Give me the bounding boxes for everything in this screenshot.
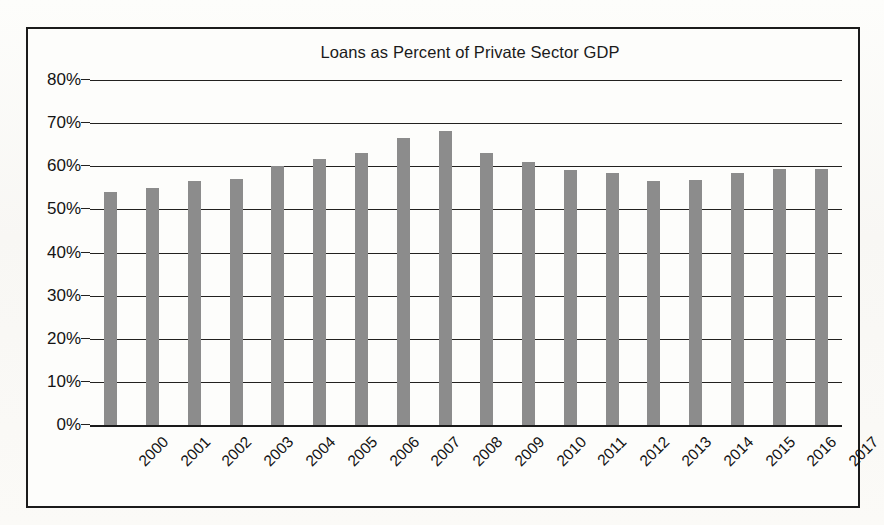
y-tick-label: 20% bbox=[47, 329, 81, 349]
x-tick-label-2016: 2016 bbox=[803, 433, 840, 470]
bar-slot bbox=[800, 80, 842, 425]
bar-slot bbox=[633, 80, 675, 425]
bar-2017[interactable] bbox=[815, 169, 828, 425]
bar-2003[interactable] bbox=[230, 179, 243, 425]
x-tick-label-2011: 2011 bbox=[594, 433, 630, 469]
y-tick-mark bbox=[81, 79, 90, 80]
y-tick-label: 0% bbox=[56, 415, 81, 435]
x-tick-label-2004: 2004 bbox=[302, 433, 339, 470]
bar-slot bbox=[132, 80, 174, 425]
bar-slot bbox=[257, 80, 299, 425]
x-tick-label-2006: 2006 bbox=[386, 433, 423, 470]
x-tick-label-2005: 2005 bbox=[344, 433, 381, 470]
bar-2012[interactable] bbox=[606, 173, 619, 425]
x-axis-labels: 2000200120022003200420052006200720082009… bbox=[90, 429, 842, 499]
bars-group bbox=[90, 80, 842, 425]
y-tick-label: 40% bbox=[47, 243, 81, 263]
bar-2004[interactable] bbox=[271, 166, 284, 425]
y-tick-label: 30% bbox=[47, 286, 81, 306]
bar-2010[interactable] bbox=[522, 162, 535, 425]
y-tick-mark bbox=[81, 122, 90, 123]
y-tick-label: 10% bbox=[47, 372, 81, 392]
bar-2001[interactable] bbox=[146, 188, 159, 425]
bar-2005[interactable] bbox=[313, 159, 326, 426]
bar-slot bbox=[424, 80, 466, 425]
bar-slot bbox=[90, 80, 132, 425]
bar-2002[interactable] bbox=[188, 181, 201, 425]
bar-slot bbox=[174, 80, 216, 425]
bar-2006[interactable] bbox=[355, 153, 368, 425]
bar-slot bbox=[591, 80, 633, 425]
bar-2000[interactable] bbox=[104, 192, 117, 425]
bar-slot bbox=[508, 80, 550, 425]
bar-slot bbox=[466, 80, 508, 425]
y-tick-mark bbox=[81, 338, 90, 339]
x-tick-label-2002: 2002 bbox=[219, 433, 256, 470]
y-tick-mark bbox=[81, 295, 90, 296]
y-tick-mark bbox=[81, 208, 90, 209]
x-axis-line bbox=[90, 425, 842, 427]
bar-chart: Loans as Percent of Private Sector GDP 8… bbox=[28, 29, 858, 506]
y-tick-mark bbox=[81, 165, 90, 166]
y-tick-mark bbox=[81, 381, 90, 382]
bar-2016[interactable] bbox=[773, 169, 786, 425]
x-tick-label-2000: 2000 bbox=[135, 433, 172, 470]
bar-2007[interactable] bbox=[397, 138, 410, 425]
bar-slot bbox=[675, 80, 717, 425]
bar-slot bbox=[341, 80, 383, 425]
x-tick-label-2009: 2009 bbox=[511, 433, 548, 470]
x-tick-label-2007: 2007 bbox=[427, 433, 464, 470]
x-tick-label-2012: 2012 bbox=[636, 433, 673, 470]
bar-slot bbox=[299, 80, 341, 425]
bar-2009[interactable] bbox=[480, 153, 493, 425]
x-tick-label-2003: 2003 bbox=[260, 433, 297, 470]
bar-2013[interactable] bbox=[647, 181, 660, 425]
y-tick-mark bbox=[81, 424, 90, 425]
plot-area: 80%70%60%50%40%30%20%10%0% bbox=[90, 80, 842, 425]
chart-title: Loans as Percent of Private Sector GDP bbox=[90, 43, 850, 62]
bar-slot bbox=[215, 80, 257, 425]
y-tick-label: 70% bbox=[47, 113, 81, 133]
x-tick-label-2013: 2013 bbox=[678, 433, 715, 470]
y-tick-mark bbox=[81, 252, 90, 253]
bar-slot bbox=[550, 80, 592, 425]
bar-2011[interactable] bbox=[564, 170, 577, 425]
y-tick-label: 80% bbox=[47, 70, 81, 90]
bar-slot bbox=[382, 80, 424, 425]
bar-2015[interactable] bbox=[731, 173, 744, 425]
x-tick-label-2008: 2008 bbox=[469, 433, 506, 470]
bar-slot bbox=[758, 80, 800, 425]
y-tick-label: 50% bbox=[47, 199, 81, 219]
bar-2014[interactable] bbox=[689, 180, 702, 425]
x-tick-label-2014: 2014 bbox=[720, 433, 757, 470]
x-tick-label-2015: 2015 bbox=[762, 433, 799, 470]
chart-frame: Loans as Percent of Private Sector GDP 8… bbox=[26, 27, 860, 508]
y-tick-label: 60% bbox=[47, 156, 81, 176]
bar-2008[interactable] bbox=[439, 131, 452, 425]
bar-slot bbox=[717, 80, 759, 425]
x-tick-label-2010: 2010 bbox=[553, 433, 590, 470]
x-tick-label-2001: 2001 bbox=[177, 433, 214, 470]
